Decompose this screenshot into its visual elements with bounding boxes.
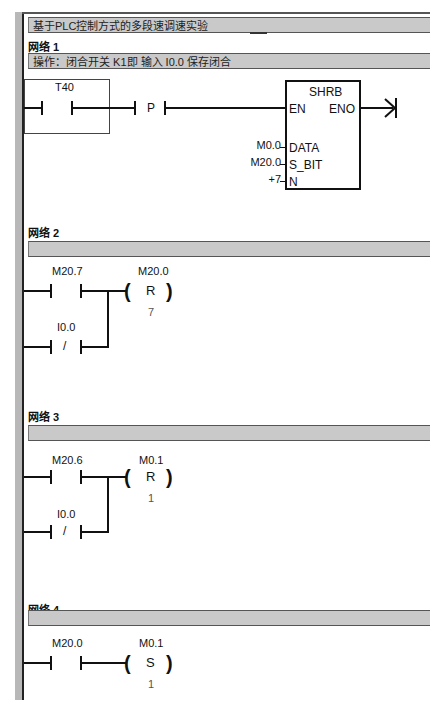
- wire: [24, 476, 51, 478]
- coil-address: M0.1: [139, 454, 163, 466]
- contact-address: M20.7: [52, 265, 83, 277]
- coil-right-paren: ): [166, 653, 173, 673]
- wire: [81, 531, 109, 533]
- block-name: SHRB: [309, 85, 342, 99]
- coil-count: 1: [148, 492, 154, 504]
- pin-n: N: [289, 175, 298, 189]
- contact-left-bar: [41, 101, 43, 115]
- program-title-bar[interactable]: 基于PLC控制方式的多段速调速实验: [28, 17, 430, 33]
- contact-address: M20.6: [52, 454, 83, 466]
- coil-address: M20.0: [138, 265, 169, 277]
- network-3-title[interactable]: 网络 3: [28, 408, 59, 424]
- coil-op: R: [146, 283, 155, 298]
- pin-en: EN: [289, 102, 306, 116]
- coil-right-paren: ): [166, 467, 173, 487]
- coil-left-paren: (: [124, 467, 131, 487]
- wire: [165, 107, 286, 109]
- branch-wire: [107, 476, 109, 533]
- contact-left-bar: [50, 525, 52, 539]
- coil-op: S: [146, 655, 155, 670]
- wire: [81, 662, 126, 664]
- wire: [81, 346, 109, 348]
- program-title: 基于PLC控制方式的多段速调速实验: [33, 20, 208, 32]
- network-1-title[interactable]: 网络 1: [28, 38, 59, 54]
- param-n[interactable]: +7: [261, 173, 281, 185]
- contact-address: I0.0: [57, 508, 75, 520]
- wire: [24, 107, 42, 109]
- contact-p-label: P: [147, 101, 155, 115]
- coil-left-paren: (: [124, 653, 131, 673]
- network-4-comment-bar[interactable]: [28, 610, 430, 626]
- contact-address: I0.0: [57, 321, 75, 333]
- coil-count: 1: [148, 678, 154, 690]
- wire: [72, 107, 135, 109]
- pin-data: DATA: [289, 141, 319, 155]
- wire: [81, 290, 126, 292]
- network-1-comment: 操作：闭合开关 K1即 输入 I0.0 保存闭合: [33, 56, 231, 68]
- contact-left-bar: [50, 340, 52, 354]
- contact-left-bar: [50, 656, 52, 670]
- contact-left-bar: [50, 470, 52, 484]
- coil-op: R: [146, 469, 155, 484]
- contact-left-bar: [50, 284, 52, 298]
- network-2-title[interactable]: 网络 2: [28, 224, 59, 240]
- pin-stub: [280, 164, 285, 165]
- pin-eno: ENO: [329, 102, 355, 116]
- shrb-block[interactable]: SHRB EN ENO DATA S_BIT N: [285, 80, 361, 190]
- coil-right-paren: ): [166, 281, 173, 301]
- wire: [24, 531, 51, 533]
- wire: [81, 476, 126, 478]
- nc-slash: /: [63, 339, 66, 353]
- network-3-comment-bar[interactable]: [28, 425, 430, 441]
- network-1-comment-bar[interactable]: 操作：闭合开关 K1即 输入 I0.0 保存闭合: [28, 53, 430, 69]
- pin-s-bit: S_BIT: [289, 158, 322, 172]
- contact-address: M20.0: [52, 637, 83, 649]
- text-caret: [250, 32, 267, 34]
- coil-left-paren: (: [124, 281, 131, 301]
- network-2-comment-bar[interactable]: [28, 241, 430, 257]
- coil-address: M0.1: [139, 637, 163, 649]
- param-data[interactable]: M0.0: [253, 139, 281, 151]
- contact-address: T40: [55, 81, 74, 93]
- nc-slash: /: [63, 524, 66, 538]
- branch-wire: [107, 290, 109, 348]
- param-s-bit[interactable]: M20.0: [247, 156, 281, 168]
- editor-top-border: [22, 12, 430, 14]
- editor-left-margin: [15, 12, 22, 700]
- contact-left-bar: [134, 101, 136, 115]
- wire: [24, 662, 51, 664]
- wire: [24, 290, 51, 292]
- coil-count: 7: [148, 306, 154, 318]
- pin-stub: [280, 181, 285, 182]
- pin-stub: [280, 147, 285, 148]
- wire: [24, 346, 51, 348]
